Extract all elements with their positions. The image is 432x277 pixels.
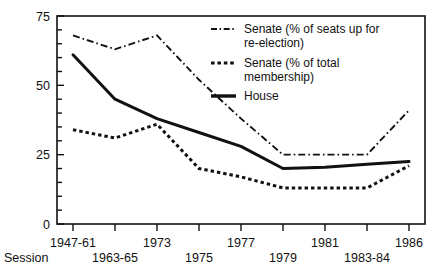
x-tick-label-1981: 1981 [311, 236, 339, 250]
legend-label-senate-seats-up-line2: re-election) [244, 36, 304, 50]
chart-container: 75 50 25 0 1947-61 1973 1977 1981 1986 1… [0, 0, 432, 277]
y-tick-label-25: 25 [36, 148, 50, 162]
x-tick-label-1975: 1975 [185, 251, 213, 265]
y-tick-label-75: 75 [36, 10, 50, 24]
x-tick-label-1947-61: 1947-61 [50, 236, 96, 250]
x-tick-label-1986: 1986 [395, 236, 423, 250]
x-tick-label-1977: 1977 [227, 236, 255, 250]
x-tick-label-1979: 1979 [269, 251, 297, 265]
y-tick-label-50: 50 [36, 79, 50, 93]
x-axis-ticks [73, 224, 409, 231]
legend-label-senate-total-line1: Senate (% of total [244, 56, 339, 70]
plot-frame [57, 16, 425, 224]
x-tick-label-1983-84: 1983-84 [344, 251, 390, 265]
x-tick-label-1963-65: 1963-65 [92, 251, 138, 265]
legend-label-senate-seats-up-line1: Senate (% of seats up for [244, 22, 379, 36]
legend-label-house: House [244, 89, 279, 103]
x-tick-label-1973: 1973 [143, 236, 171, 250]
y-tick-label-0: 0 [43, 218, 50, 232]
x-axis-title: Session [4, 251, 49, 265]
legend-label-senate-total-line2: membership) [244, 70, 314, 84]
line-chart: 75 50 25 0 1947-61 1973 1977 1981 1986 1… [0, 0, 432, 277]
